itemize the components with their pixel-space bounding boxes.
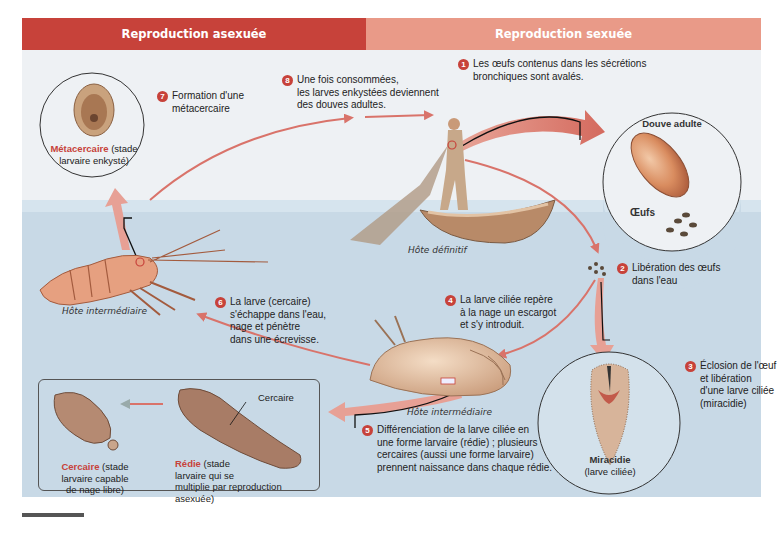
redia-line: asexuée) bbox=[175, 493, 214, 504]
metacercaria-subtitle: larvaire enkysté) bbox=[59, 155, 129, 166]
cercaria-line: de nage libre) bbox=[66, 484, 124, 495]
cercaria-label: Cercaire (stade larvaire capable de nage… bbox=[45, 461, 145, 496]
snail-host-label: Hôte intermédiaire bbox=[407, 406, 492, 419]
step-8-line: Une fois consommées, bbox=[297, 74, 439, 87]
redia-title: Rédie bbox=[175, 458, 201, 469]
step-5-line: une forme larvaire (rédie) ; plusieurs bbox=[377, 437, 552, 450]
eggs-label: Œufs bbox=[630, 207, 655, 220]
crayfish-host-label: Hôte intermédiaire bbox=[62, 305, 147, 318]
arrow-step-7 bbox=[105, 188, 140, 265]
step-1: 1 Les œufs contenus dans les sécrétions … bbox=[458, 58, 708, 83]
step-6-line: s'échappe dans l'eau, bbox=[230, 309, 326, 322]
redia-line: (stade bbox=[201, 458, 230, 469]
step-2-line: dans l'eau bbox=[632, 275, 720, 288]
redia-line: larvaire qui se bbox=[175, 470, 234, 481]
cercaria-pointer-label: Cercaire bbox=[258, 392, 294, 405]
step-6-line: nage et pénètre bbox=[230, 321, 326, 334]
step-4-line: La larve ciliée repère bbox=[460, 294, 556, 307]
step-3-line: (miracidie) bbox=[700, 398, 776, 411]
adult-fluke-title: Douve adulte bbox=[632, 118, 712, 130]
step-badge: 8 bbox=[282, 75, 293, 86]
definitive-host-label: Hôte définitif bbox=[408, 244, 467, 257]
step-6-line: La larve (cercaire) bbox=[230, 296, 326, 309]
arrow-step-3 bbox=[590, 278, 614, 362]
step-1-line: Les œufs contenus dans les sécrétions bbox=[473, 58, 646, 71]
step-4-line: et s'y introduit. bbox=[460, 319, 556, 332]
metacercaria-title: Métacercaire bbox=[50, 143, 108, 154]
step-3-line: Éclosion de l'œuf bbox=[700, 360, 776, 373]
step-3-line: et libération bbox=[700, 373, 776, 386]
step-7: 7 Formation d'une métacercaire bbox=[157, 90, 267, 115]
step-6: 6 La larve (cercaire) s'échappe dans l'e… bbox=[215, 296, 355, 346]
metacercaria-subtitle: (stade bbox=[109, 143, 138, 154]
step-8-line: des douves adultes. bbox=[297, 99, 439, 112]
redia-line: multiplie par reproduction bbox=[175, 481, 282, 492]
step-badge: 7 bbox=[157, 91, 168, 102]
footer-bar bbox=[22, 513, 84, 517]
step-badge: 4 bbox=[445, 295, 456, 306]
step-5-line: cercaires (aussi une forme larvaire) bbox=[377, 449, 552, 462]
step-1-line: bronchiques sont avalés. bbox=[473, 71, 646, 84]
step-7-line: Formation d'une bbox=[172, 90, 244, 103]
step-3: 3 Éclosion de l'œuf et libération d'une … bbox=[685, 360, 783, 410]
step-badge: 3 bbox=[685, 361, 696, 372]
miracidium-subtitle: (larve ciliée) bbox=[584, 466, 635, 477]
cercaria-line: (stade bbox=[99, 461, 128, 472]
step-badge: 2 bbox=[617, 263, 628, 274]
miracidium-label: Miracidie (larve ciliée) bbox=[570, 454, 650, 477]
step-5: 5 Différenciation de la larve ciliée en … bbox=[362, 424, 562, 474]
step-4-line: à la nage un escargot bbox=[460, 307, 556, 320]
step-badge: 1 bbox=[458, 59, 469, 70]
cercaria-line: larvaire capable bbox=[61, 473, 128, 484]
step-8-line: les larves enkystées deviennent bbox=[297, 87, 439, 100]
arrow-step-8 bbox=[150, 115, 430, 200]
step-2-line: Libération des œufs bbox=[632, 262, 720, 275]
step-badge: 5 bbox=[362, 425, 373, 436]
step-badge: 6 bbox=[215, 297, 226, 308]
arrow-step-1 bbox=[455, 110, 605, 152]
redia-label: Rédie (stade larvaire qui se multiplie p… bbox=[175, 458, 315, 504]
step-5-line: prennent naissance dans chaque rédie. bbox=[377, 462, 552, 475]
cercaria-title: Cercaire bbox=[61, 461, 99, 472]
step-7-line: métacercaire bbox=[172, 103, 244, 116]
step-6-line: dans une écrevisse. bbox=[230, 334, 326, 347]
metacercaria-label: Métacercaire (stade larvaire enkysté) bbox=[44, 143, 144, 166]
step-4: 4 La larve ciliée repère à la nage un es… bbox=[445, 294, 585, 332]
released-eggs-icon bbox=[588, 262, 606, 276]
step-8: 8 Une fois consommées, les larves enkyst… bbox=[282, 74, 457, 112]
fisherman-illustration bbox=[350, 118, 555, 245]
step-2: 2 Libération des œufs dans l'eau bbox=[617, 262, 767, 287]
miracidium-title: Miracidie bbox=[589, 454, 630, 465]
step-5-line: Différenciation de la larve ciliée en bbox=[377, 424, 552, 437]
step-3-line: d'une larve ciliée bbox=[700, 385, 776, 398]
